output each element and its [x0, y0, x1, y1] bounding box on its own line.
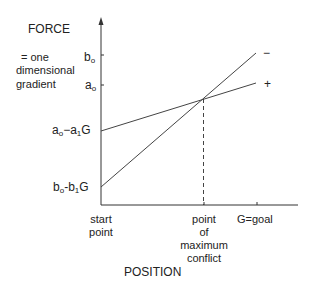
- x-tick-start: start point: [80, 213, 122, 239]
- y-axis-subtitle-line2: dimensional: [16, 64, 75, 77]
- minus-sign-label: −: [263, 47, 270, 60]
- label-a0-minus-a1G: ao−a1G: [52, 124, 91, 137]
- y-axis-arrow-icon: [99, 17, 104, 25]
- diagram-canvas: [0, 0, 313, 287]
- approach-gradient-line: [101, 83, 256, 131]
- plus-sign-label: +: [264, 78, 271, 91]
- avoidance-gradient-line: [101, 53, 256, 187]
- y-axis-title: FORCE: [28, 23, 70, 36]
- x-axis-title: POSITION: [124, 266, 181, 279]
- y-axis-subtitle-line3: gradient: [16, 78, 56, 91]
- y-axis-subtitle-line1: = one: [21, 51, 49, 64]
- label-a0: ao: [85, 79, 96, 92]
- label-b0-minus-b1G: bo-b1G: [53, 181, 89, 194]
- label-b0: bo: [84, 51, 95, 64]
- x-tick-conflict: point of maximum conflict: [176, 213, 232, 265]
- x-tick-goal: G=goal: [237, 213, 273, 226]
